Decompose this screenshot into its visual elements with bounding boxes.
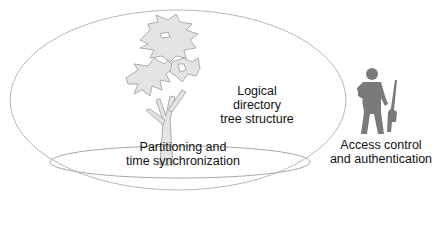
partitioning-label-line-2: time synchronization [118, 154, 248, 168]
tree-label-line-2: directory [216, 98, 298, 112]
tree-label-line-3: tree structure [216, 112, 298, 126]
partitioning-label: Partitioning and time synchronization [118, 140, 248, 168]
tree-label-line-1: Logical [216, 84, 298, 98]
access-control-label-line-2: and authentication [325, 152, 436, 166]
access-control-label-line-1: Access control [325, 138, 436, 152]
access-control-label: Access control and authentication [325, 138, 436, 166]
partitioning-label-line-1: Partitioning and [118, 140, 248, 154]
tree-label: Logical directory tree structure [216, 84, 298, 126]
armed-guard-icon [354, 68, 397, 134]
